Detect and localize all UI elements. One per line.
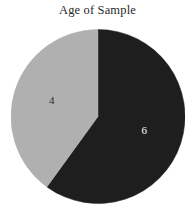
pie-svg: 6 4 [11, 27, 185, 206]
pie-plot-area: 6 4 [11, 27, 185, 206]
pie-slice-label-4: 4 [49, 94, 55, 106]
chart-title: Age of Sample [0, 3, 195, 18]
pie-chart-figure: Age of Sample 6 4 [0, 0, 195, 212]
pie-slices [11, 30, 185, 204]
pie-slice-label-6: 6 [142, 124, 148, 136]
